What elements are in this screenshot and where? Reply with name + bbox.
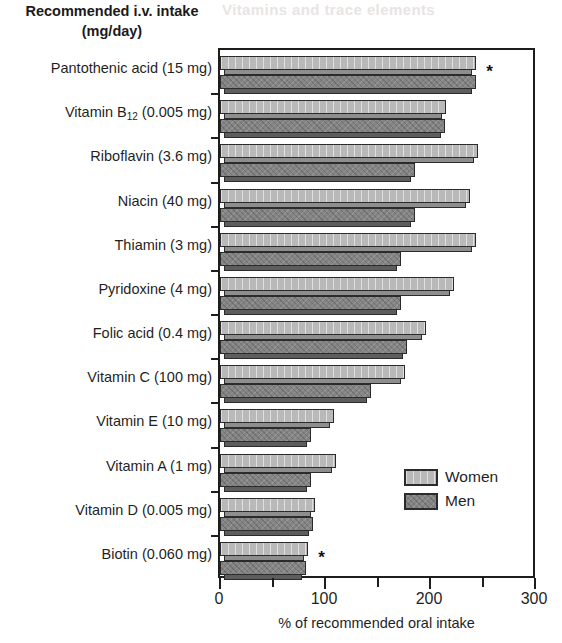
bar-bevel-shadow — [224, 354, 403, 359]
legend-label-women: Women — [445, 468, 498, 486]
x-axis-label-300: 300 — [521, 590, 548, 608]
bar-women-9 — [220, 454, 336, 468]
bar-women-2 — [220, 144, 478, 158]
bar-women-8 — [220, 409, 334, 423]
bar-men-10 — [220, 517, 313, 531]
bar-face — [220, 119, 445, 133]
y-axis-tick-11 — [211, 535, 220, 537]
chart-legend: Women Men — [404, 466, 498, 514]
legend-label-men: Men — [445, 492, 475, 510]
bar-face — [220, 542, 308, 556]
x-axis-tick-50 — [272, 578, 274, 587]
bar-face — [220, 454, 336, 468]
bar-bevel-shadow — [224, 133, 441, 138]
bar-bevel-shadow — [224, 310, 397, 315]
chart-title: Recommended i.v. intake (mg/day) — [6, 2, 218, 41]
category-label-11: Biotin (0.060 mg) — [0, 546, 212, 562]
x-axis-tick-0 — [219, 578, 221, 589]
bar-face — [220, 365, 405, 379]
bar-men-7 — [220, 384, 371, 398]
category-label-9: Vitamin A (1 mg) — [0, 458, 212, 474]
y-axis-tick-2 — [211, 137, 220, 139]
bar-face — [220, 100, 446, 114]
x-axis-tick-100 — [324, 578, 326, 589]
bar-face — [220, 517, 313, 531]
x-axis-tick-300 — [534, 578, 536, 589]
category-label-8: Vitamin E (10 mg) — [0, 413, 212, 429]
bar-face — [220, 498, 315, 512]
annotation-asterisk-0: * — [486, 63, 493, 80]
bar-women-7 — [220, 365, 405, 379]
category-label-10: Vitamin D (0.005 mg) — [0, 502, 212, 518]
x-axis-tick-200 — [429, 578, 431, 589]
category-label-5: Pyridoxine (4 mg) — [0, 281, 212, 297]
bar-face — [220, 321, 426, 335]
bar-men-3 — [220, 208, 415, 222]
bar-face — [220, 473, 311, 487]
bar-face — [220, 144, 478, 158]
category-label-3: Niacin (40 mg) — [0, 193, 212, 209]
x-axis-label-200: 200 — [416, 590, 443, 608]
bar-bevel-shadow — [224, 177, 411, 182]
y-axis-tick-9 — [211, 447, 220, 449]
category-label-4: Thiamin (3 mg) — [0, 237, 212, 253]
x-axis-title: % of recommended oral intake — [218, 615, 535, 631]
bar-women-1 — [220, 100, 446, 114]
x-axis-tick-150 — [377, 578, 379, 587]
y-axis-tick-5 — [211, 270, 220, 272]
bar-face — [220, 409, 334, 423]
y-axis-tick-8 — [211, 402, 220, 404]
bar-men-9 — [220, 473, 311, 487]
bar-men-1 — [220, 119, 445, 133]
chart-title-line1: Recommended i.v. intake — [26, 3, 199, 19]
bar-bevel-shadow — [224, 89, 472, 94]
bar-face — [220, 277, 454, 291]
bar-men-11 — [220, 561, 306, 575]
x-axis-label-100: 100 — [311, 590, 338, 608]
background-bleed-text: Vitamins and trace elements — [222, 1, 435, 18]
category-label-2: Riboflavin (3.6 mg) — [0, 148, 212, 164]
category-label-6: Folic acid (0.4 mg) — [0, 325, 212, 341]
x-axis-tick-250 — [482, 578, 484, 587]
category-label-7: Vitamin C (100 mg) — [0, 369, 212, 385]
y-axis-tick-7 — [211, 358, 220, 360]
bar-men-2 — [220, 163, 415, 177]
x-axis-label-0: 0 — [215, 590, 224, 608]
bar-face — [220, 233, 476, 247]
bar-women-4 — [220, 233, 476, 247]
y-axis-tick-1 — [211, 93, 220, 95]
bar-face — [220, 428, 311, 442]
y-axis-tick-3 — [211, 182, 220, 184]
bar-men-4 — [220, 252, 401, 266]
bar-face — [220, 561, 306, 575]
category-label-0: Pantothenic acid (15 mg) — [0, 60, 212, 76]
bar-bevel-shadow — [224, 442, 307, 447]
bar-women-10 — [220, 498, 315, 512]
x-axis-ticks — [218, 578, 535, 588]
chart-title-line2: (mg/day) — [6, 22, 218, 42]
bar-face — [220, 296, 401, 310]
bar-men-0 — [220, 75, 476, 89]
bar-women-0 — [220, 56, 476, 70]
y-axis-tick-10 — [211, 491, 220, 493]
bar-women-3 — [220, 189, 470, 203]
bar-bevel-shadow — [224, 266, 397, 271]
bar-face — [220, 163, 415, 177]
legend-item-men: Men — [404, 490, 498, 512]
bar-face — [220, 340, 407, 354]
bar-face — [220, 75, 476, 89]
x-axis-tick-labels: 0100200300 — [0, 590, 562, 612]
legend-swatch-women — [404, 469, 438, 486]
chart-figure: Vitamins and trace elements Recommended … — [0, 0, 562, 643]
legend-swatch-men — [404, 493, 438, 510]
bar-bevel-shadow — [224, 398, 367, 403]
y-axis-tick-6 — [211, 314, 220, 316]
bar-women-6 — [220, 321, 426, 335]
bar-bevel-shadow — [224, 222, 411, 227]
bar-women-5 — [220, 277, 454, 291]
bar-face — [220, 252, 401, 266]
y-axis-category-labels: Pantothenic acid (15 mg)Vitamin B12 (0.0… — [0, 48, 212, 578]
y-axis-tick-4 — [211, 226, 220, 228]
bar-face — [220, 56, 476, 70]
bar-bevel-shadow — [224, 531, 309, 536]
